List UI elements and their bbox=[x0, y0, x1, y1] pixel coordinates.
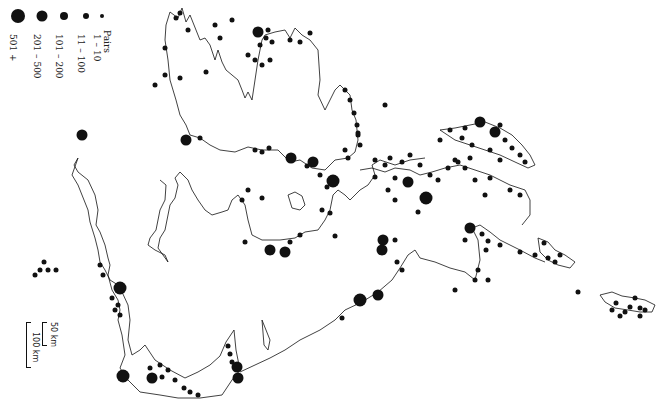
pair-count-symbol bbox=[558, 253, 563, 258]
pair-count-symbol bbox=[498, 158, 503, 163]
pair-count-symbol bbox=[198, 136, 203, 141]
pair-count-symbol bbox=[113, 308, 118, 313]
pair-count-symbol bbox=[468, 156, 473, 161]
pair-count-symbol bbox=[166, 368, 171, 373]
legend-label-201-500: 201 – 500 bbox=[32, 34, 42, 79]
pair-count-symbol bbox=[213, 23, 218, 28]
legend-dot-101-200 bbox=[60, 12, 68, 20]
pair-count-symbol bbox=[553, 260, 558, 265]
pair-count-symbol bbox=[484, 248, 489, 253]
pair-count-symbol bbox=[498, 123, 503, 128]
scale-bar: 50 km 100 km bbox=[24, 320, 64, 370]
pair-count-symbol bbox=[428, 173, 433, 178]
pair-count-symbol bbox=[182, 386, 187, 391]
pair-count-symbol bbox=[465, 223, 476, 234]
legend-dot-501-plus bbox=[11, 9, 25, 23]
pair-count-symbol bbox=[264, 36, 269, 41]
pair-count-symbol bbox=[308, 31, 313, 36]
pair-count-symbol bbox=[163, 73, 168, 78]
pair-count-symbol bbox=[416, 210, 421, 215]
pair-count-symbol bbox=[117, 370, 130, 383]
pair-count-symbol bbox=[118, 313, 123, 318]
pair-count-symbol bbox=[233, 373, 244, 384]
pair-count-symbol bbox=[518, 153, 523, 158]
pair-count-symbol bbox=[518, 193, 523, 198]
pair-count-symbol bbox=[523, 160, 528, 165]
pair-count-symbol bbox=[373, 158, 378, 163]
pair-count-symbol bbox=[253, 58, 258, 63]
pair-count-symbol bbox=[503, 138, 508, 143]
pair-count-symbol bbox=[488, 176, 493, 181]
pair-count-symbol bbox=[260, 150, 265, 155]
pair-count-symbol bbox=[173, 378, 178, 383]
pair-count-symbol bbox=[325, 185, 330, 190]
legend-label-11-100: 11 – 100 bbox=[76, 34, 86, 73]
pair-count-symbol bbox=[480, 232, 485, 237]
pair-count-symbol bbox=[546, 256, 551, 261]
pair-count-symbol bbox=[638, 306, 643, 311]
pair-count-symbol bbox=[518, 250, 523, 255]
pair-count-symbol bbox=[243, 240, 248, 245]
pair-count-symbol bbox=[393, 176, 398, 181]
pair-count-symbol bbox=[448, 128, 453, 133]
pair-count-symbol bbox=[318, 173, 323, 178]
pair-count-symbol bbox=[352, 111, 357, 116]
pair-count-symbol bbox=[377, 245, 388, 256]
pair-count-symbol bbox=[460, 136, 465, 141]
pair-count-symbol bbox=[453, 158, 458, 163]
pair-count-symbol bbox=[400, 160, 405, 165]
legend-dot-11-100 bbox=[83, 13, 89, 19]
pair-count-symbol bbox=[181, 135, 192, 146]
pair-count-symbol bbox=[116, 303, 121, 308]
pair-count-symbol bbox=[436, 178, 441, 183]
pair-count-symbol bbox=[498, 243, 503, 248]
coastline-paths bbox=[72, 8, 655, 398]
legend-entry-201-500: 201 – 500 bbox=[30, 8, 54, 78]
pair-count-symbol bbox=[373, 175, 378, 180]
pair-count-symbol bbox=[340, 316, 345, 321]
pair-count-symbol bbox=[158, 363, 163, 368]
pair-count-symbol bbox=[260, 196, 265, 201]
pair-count-symbol bbox=[475, 117, 486, 128]
pair-count-symbol bbox=[153, 83, 158, 88]
pair-count-symbol bbox=[204, 70, 209, 75]
pair-count-symbol bbox=[486, 239, 491, 244]
pair-count-symbol bbox=[288, 240, 293, 245]
pair-count-symbol bbox=[348, 98, 353, 103]
pair-count-symbol bbox=[510, 146, 515, 151]
pair-count-symbol bbox=[633, 296, 638, 301]
map-legend: Pairs 1 – 10 11 – 100 101 – 200 201 – 50… bbox=[0, 0, 150, 110]
pair-count-symbol bbox=[228, 352, 233, 357]
legend-dot-1-10 bbox=[100, 14, 104, 18]
pair-count-symbol bbox=[473, 278, 478, 283]
legend-label-501-plus: 501 + bbox=[8, 34, 18, 62]
pair-count-symbol bbox=[110, 296, 115, 301]
pair-count-symbol bbox=[383, 163, 388, 168]
pair-count-symbol bbox=[373, 290, 384, 301]
pair-count-symbol bbox=[346, 156, 351, 161]
pair-count-symbol bbox=[610, 308, 615, 313]
pair-count-symbol bbox=[253, 27, 264, 38]
pair-count-symbol bbox=[288, 38, 293, 43]
pair-count-symbol bbox=[186, 28, 191, 33]
pair-count-symbol bbox=[383, 103, 388, 108]
pair-count-symbol bbox=[246, 53, 251, 58]
pair-count-symbol bbox=[258, 43, 263, 48]
pair-count-symbol bbox=[386, 188, 391, 193]
pair-count-symbol bbox=[508, 188, 513, 193]
pair-count-symbol bbox=[354, 294, 367, 307]
legend-label-101-200: 101 – 200 bbox=[54, 34, 64, 79]
pair-count-symbol bbox=[114, 282, 127, 295]
pair-count-symbol bbox=[408, 153, 413, 158]
pair-count-symbol bbox=[226, 344, 231, 349]
pair-count-symbol bbox=[614, 301, 619, 306]
pair-count-symbol bbox=[270, 40, 275, 45]
pair-count-symbol bbox=[266, 28, 271, 33]
pair-count-symbol bbox=[54, 268, 59, 273]
pair-count-symbol bbox=[358, 143, 363, 148]
scale-label-50km: 50 km bbox=[49, 322, 58, 347]
pair-count-symbol bbox=[46, 268, 51, 273]
pair-count-symbol bbox=[343, 88, 348, 93]
pair-count-symbol bbox=[463, 126, 468, 131]
pair-count-symbol bbox=[488, 148, 493, 153]
